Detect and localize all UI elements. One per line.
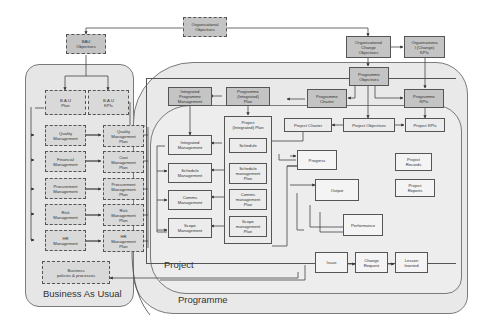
lesson-learned-node: Lesson learned xyxy=(395,252,428,273)
bau-procurement-management-plan-node: Procurement Management Plan xyxy=(103,178,144,200)
organisational-objectives-node: Organisational Objectives xyxy=(183,17,227,37)
progress-node: Progress xyxy=(297,150,337,170)
schedule-management-plan-node: Schedule management Plan xyxy=(229,163,267,184)
bau-risk-management-node: Risk Management xyxy=(45,204,86,225)
performance-node: Performance xyxy=(343,214,383,236)
bau-plan-node: B.A.U Plan xyxy=(45,90,86,115)
project-integrated-plan-title: Project (Integrated) Plan xyxy=(232,120,263,130)
bau-hr-management-plan-node: HR Management Plan xyxy=(103,230,144,252)
bau-procurement-management-node: Procurement Management xyxy=(45,178,86,199)
scope-management-node: Scope Management xyxy=(168,218,212,238)
issue-node: Issue xyxy=(315,252,348,273)
output-node: Output xyxy=(315,179,359,201)
project-reports-node: Project Reports xyxy=(395,179,435,197)
project-records-node: Project Records xyxy=(395,153,432,171)
bau-objectives-node: BAU Objectives xyxy=(66,34,106,54)
bau-financial-management-node: Financial Management xyxy=(45,151,86,172)
programme-integrated-plan-node: Programme (Integrated) Plan xyxy=(226,87,270,106)
comms-management-node: Comms Management xyxy=(168,190,212,210)
project-charter-node: Project Charter xyxy=(284,118,332,132)
organisational-change-objectives-node: Organisational Change Objectives xyxy=(346,36,391,58)
integrated-management-node: Integrated Management xyxy=(168,135,212,155)
bau-hr-management-node: HR Management xyxy=(45,230,86,251)
programme-charter-node: Programme Charter xyxy=(307,89,347,108)
comms-management-plan-node: Comms management Plan xyxy=(229,189,267,210)
business-policies-node: Business policies & processes xyxy=(42,261,110,284)
bau-region-label: Business As Usual xyxy=(43,288,122,299)
programme-objectives-node: Programme Objectives xyxy=(349,67,389,86)
bau-kpis-node: B.A.U KPIs xyxy=(88,90,129,115)
programme-region-label: Programme xyxy=(178,294,228,305)
bau-risk-management-plan-node: Risk Management Plan xyxy=(103,204,144,226)
bau-quality-management-node: Quality Management xyxy=(45,125,86,146)
change-request-node: Change Request xyxy=(355,252,388,273)
bau-cost-management-plan-node: Cost Management Plan xyxy=(103,151,144,173)
bau-quality-management-plan-node: Quality Management Plan xyxy=(103,125,144,147)
scope-management-plan-node: Scope management Plan xyxy=(229,216,267,237)
schedule-management-node: Schedule Management xyxy=(168,163,212,183)
project-objectives-node: Project Objectives xyxy=(343,118,395,132)
integrated-programme-management-node: Integrated Programme Management xyxy=(168,87,212,106)
programme-kpis-node: Programme KPIs xyxy=(404,89,444,108)
project-region-label: Project xyxy=(164,259,194,270)
organisational-change-kpis-node: Organisationa l (Change) KPIs xyxy=(404,36,445,58)
project-kpis-node: Project KPIs xyxy=(405,118,445,132)
diagram-canvas: Business As Usual Programme Project xyxy=(0,0,483,320)
project-schedule-node: Schedule xyxy=(229,138,267,153)
